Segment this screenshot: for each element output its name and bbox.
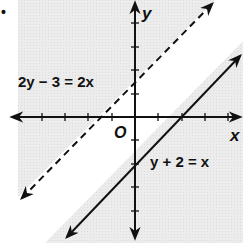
bullet: • xyxy=(1,4,6,20)
equation-label-dashed: 2y − 3 = 2x xyxy=(18,73,95,90)
origin-label: O xyxy=(114,124,127,141)
graph: • y x O 2y − 3 = 2x y + 2 = x xyxy=(0,0,243,243)
y-axis-label: y xyxy=(141,4,153,23)
equation-label-solid: y + 2 = x xyxy=(150,153,210,170)
x-axis-label: x xyxy=(229,126,241,145)
